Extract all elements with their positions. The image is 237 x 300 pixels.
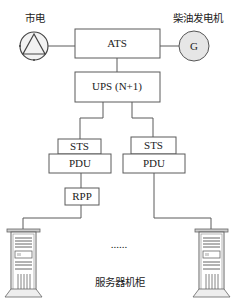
left-sts-label: STS — [70, 140, 89, 152]
rack-label: 服务器机柜 — [95, 276, 145, 288]
power-distribution-diagram: 市电 柴油发电机 G ATS UPS (N+1) STS PDU RPP — [0, 0, 237, 300]
left-pdu-label: PDU — [69, 157, 91, 169]
ups-label: UPS (N+1) — [92, 80, 142, 93]
rpp-label: RPP — [72, 190, 92, 202]
server-rack-icon — [5, 229, 42, 297]
rpp-to-left-rack-line — [23, 205, 81, 229]
grid-label: 市电 — [25, 12, 46, 24]
generator-symbol: G — [190, 40, 198, 52]
generator-label: 柴油发电机 — [173, 12, 224, 24]
left-sts-box: STS — [58, 139, 101, 154]
right-sts-label: STS — [144, 139, 163, 151]
right-pdu-box: PDU — [123, 154, 185, 173]
ellipsis: ...... — [111, 238, 128, 250]
rpp-box: RPP — [65, 188, 99, 205]
ups-to-left-sts-line — [80, 102, 103, 140]
grid-source-icon — [19, 32, 48, 61]
ups-to-right-sts-line — [132, 102, 153, 137]
generator-icon: G — [179, 31, 209, 61]
right-pdu-to-rack-line — [154, 173, 211, 229]
ats-label: ATS — [107, 37, 127, 49]
left-pdu-box: PDU — [49, 154, 111, 173]
ats-box: ATS — [75, 29, 160, 58]
right-sts-box: STS — [131, 137, 176, 154]
ups-box: UPS (N+1) — [75, 72, 160, 102]
server-rack-icon — [193, 229, 230, 297]
right-pdu-label: PDU — [143, 157, 165, 169]
